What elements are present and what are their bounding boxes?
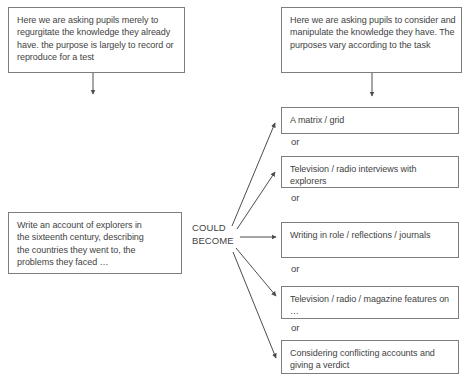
diagram-canvas: Here we are asking pupils merely to regu…: [0, 0, 463, 381]
option-box-conflicting-accounts: Considering conflicting accounts and giv…: [281, 340, 459, 374]
option-label: Television / radio interviews with explo…: [290, 163, 453, 188]
arrow-to-option-4: [236, 248, 276, 296]
option-box-magazine-features: Television / radio / magazine features o…: [281, 286, 459, 319]
or-separator-4: or: [291, 322, 299, 334]
option-box-writing-in-role: Writing in role / reflections / journals: [281, 222, 459, 258]
arrow-to-option-1: [232, 123, 275, 226]
option-label: A matrix / grid: [290, 114, 453, 126]
arrow-to-option-2: [237, 172, 275, 229]
recall-explanation-text: Here we are asking pupils merely to regu…: [17, 14, 179, 64]
option-label: Writing in role / reflections / journals: [290, 229, 453, 241]
arrow-to-option-5: [233, 252, 276, 358]
option-label: Considering conflicting accounts and giv…: [290, 347, 453, 372]
could-become-label: COULD BECOME: [192, 221, 240, 247]
manipulate-explanation-box: Here we are asking pupils to consider an…: [281, 7, 462, 73]
option-label: Television / radio / magazine features o…: [290, 293, 453, 318]
or-separator-3: or: [291, 263, 299, 275]
task-box: Write an account of explorers in the six…: [8, 212, 182, 274]
option-box-matrix-grid: A matrix / grid: [281, 107, 459, 134]
manipulate-explanation-text: Here we are asking pupils to consider an…: [290, 14, 456, 51]
or-separator-1: or: [291, 136, 299, 148]
or-separator-2: or: [291, 192, 299, 204]
option-box-tv-radio-interviews: Television / radio interviews with explo…: [281, 156, 459, 188]
recall-explanation-box: Here we are asking pupils merely to regu…: [8, 7, 185, 73]
task-text: Write an account of explorers in the six…: [17, 219, 147, 269]
